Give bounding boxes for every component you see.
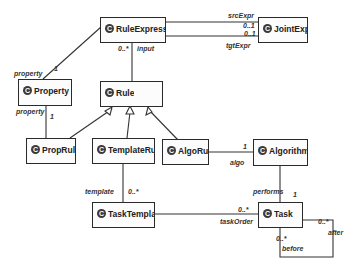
multiplicity-after: 0..* [318,218,329,225]
class-icon: C [258,146,267,155]
multiplicity-before: 0..* [276,235,287,242]
class-proprule[interactable]: C PropRule [26,138,76,164]
role-label-template: template [85,188,114,195]
algorule-generalization [148,109,178,140]
class-jointexpr[interactable]: C JointExpr [258,17,308,43]
proprule-generalization [70,109,112,138]
class-name: RuleExpression [116,24,165,34]
class-name: AlgoRule [178,146,208,156]
multiplicity-template: 0..* [128,188,139,195]
templaterule-generalization [127,112,130,138]
role-label-taskorder: taskOrder [220,218,253,225]
multiplicity-property-bottom: 1 [50,113,54,120]
role-label-algo: algo [230,159,244,166]
class-icon: C [97,209,106,218]
multiplicity-tgtexpr: 0..1 [244,30,256,37]
multiplicity-algo: 1 [243,143,247,150]
class-rule[interactable]: C Rule [100,81,163,107]
class-icon: C [97,145,106,154]
class-name: JointExpr [274,24,307,34]
class-icon: C [263,24,272,33]
property-association-top [43,27,101,79]
class-icon: C [263,209,272,218]
role-label-input: input [137,45,154,52]
class-algorule[interactable]: C AlgoRule [162,139,209,165]
multiplicity-property-top: 1 [54,65,58,72]
class-name: TemplateRule [108,145,154,155]
role-label-after: after [328,229,343,236]
class-property[interactable]: C Property [18,79,72,106]
class-icon: C [31,145,40,154]
multiplicity-performs: 1 [293,191,297,198]
class-name: Property [34,86,69,96]
role-label-before: before [282,245,303,252]
class-name: Rule [116,88,134,98]
role-label-property-top: property [14,70,42,77]
class-name: Algorithm [269,146,307,156]
generalization-arrowhead-icon [146,107,152,115]
class-name: TaskTemplate [108,209,154,219]
class-ruleexpression[interactable]: C RuleExpression [100,17,166,43]
class-name: Task [274,209,293,219]
role-label-tgtexpr: tgtExpr [226,42,251,49]
class-icon: C [167,146,176,155]
role-label-srcexpr: srcExpr [228,12,254,19]
class-icon: C [23,86,32,95]
class-task[interactable]: C Task [258,202,303,228]
multiplicity-taskorder: 0..* [238,206,249,213]
uml-class-diagram: C RuleExpression C JointExpr C Property … [0,0,358,271]
role-label-performs: performs [253,188,283,195]
generalization-arrowhead-icon [105,107,112,115]
multiplicity-srcexpr: 0..1 [243,22,255,29]
class-name: PropRule [42,145,75,155]
multiplicity-input: 0..* [118,45,129,52]
class-icon: C [105,24,114,33]
class-algorithm[interactable]: C Algorithm [253,139,308,166]
role-label-property-bottom: property [16,108,44,115]
generalization-arrowhead-icon [126,106,134,114]
class-icon: C [105,88,114,97]
class-tasktemplate[interactable]: C TaskTemplate [92,202,155,228]
class-templaterule[interactable]: C TemplateRule [92,138,155,164]
